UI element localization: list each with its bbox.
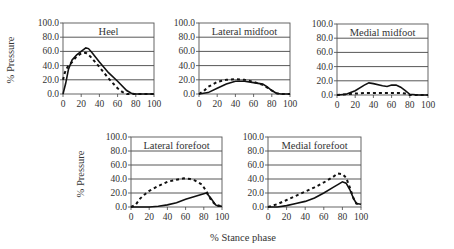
x-tick-label: 40 (95, 99, 105, 109)
y-tick-label: 80.0 (316, 33, 333, 43)
x-tick-label: 0 (335, 100, 340, 110)
lateral-forefoot-chart: 0.020.040.060.080.0100.0020406080100Late… (106, 132, 230, 222)
x-tick-label: 0 (61, 99, 66, 109)
series-solid (268, 182, 361, 207)
y-tick-label: 80.0 (110, 146, 127, 156)
x-tick-label: 20 (212, 99, 222, 109)
heel-chart: 0.020.040.060.080.0100.0020406080100Heel (38, 18, 162, 109)
y-tick-label: 0.0 (321, 90, 333, 100)
x-tick-label: 40 (231, 99, 241, 109)
series-dashed (268, 173, 361, 207)
y-tick-label: 40.0 (178, 61, 195, 71)
y-tick-label: 40.0 (110, 174, 127, 184)
y-tick-label: 60.0 (42, 46, 59, 56)
x-tick-label: 60 (249, 99, 259, 109)
x-tick-label: 100 (354, 212, 369, 222)
x-tick-label: 80 (338, 212, 348, 222)
y-tick-label: 100.0 (174, 18, 196, 28)
y-tick-label: 20.0 (247, 188, 264, 198)
y-tick-label: 0.0 (47, 89, 59, 99)
y-tick-label: 60.0 (247, 160, 264, 170)
medial-forefoot-chart: 0.020.040.060.080.0100.0020406080100Medi… (243, 132, 369, 222)
x-axis-label: % Stance phase (210, 232, 276, 243)
chart-title: Heel (99, 26, 119, 37)
x-tick-label: 80 (405, 100, 415, 110)
y-tick-label: 80.0 (178, 32, 195, 42)
chart-title: Lateral midfoot (212, 26, 278, 37)
x-tick-label: 40 (369, 100, 379, 110)
x-tick-label: 0 (129, 212, 134, 222)
y-tick-label: 0.0 (183, 89, 195, 99)
x-tick-label: 20 (144, 212, 154, 222)
x-tick-label: 60 (319, 212, 329, 222)
x-tick-label: 60 (387, 100, 397, 110)
y-tick-label: 20.0 (178, 75, 195, 85)
x-tick-label: 20 (282, 212, 292, 222)
y-tick-label: 20.0 (42, 75, 59, 85)
figure-canvas: 0.020.040.060.080.0100.0020406080100Heel… (0, 0, 454, 249)
x-tick-label: 80 (199, 212, 209, 222)
y-tick-label: 40.0 (316, 62, 333, 72)
y-tick-label: 20.0 (110, 188, 127, 198)
x-tick-label: 100 (147, 99, 162, 109)
x-tick-label: 80 (267, 99, 277, 109)
y-tick-label: 80.0 (247, 146, 264, 156)
x-tick-label: 40 (163, 212, 173, 222)
y-tick-label: 40.0 (42, 61, 59, 71)
series-solid (199, 81, 290, 94)
x-tick-label: 80 (131, 99, 141, 109)
y-tick-label: 60.0 (316, 47, 333, 57)
lateral-midfoot-chart: 0.020.040.060.080.0100.0020406080100Late… (174, 18, 298, 109)
y-axis-label-top: % Pressure (5, 36, 16, 83)
x-tick-label: 40 (300, 212, 310, 222)
x-tick-label: 0 (197, 99, 202, 109)
chart-title: Medial forefoot (281, 140, 347, 151)
x-tick-label: 20 (350, 100, 360, 110)
y-tick-label: 100.0 (38, 18, 60, 28)
y-tick-label: 60.0 (110, 160, 127, 170)
y-tick-label: 0.0 (252, 202, 264, 212)
series-solid (63, 48, 154, 94)
y-tick-label: 100.0 (312, 19, 334, 29)
medial-midfoot-chart: 0.020.040.060.080.0100.0020406080100Medi… (312, 19, 436, 110)
x-tick-label: 100 (215, 212, 230, 222)
y-tick-label: 20.0 (316, 76, 333, 86)
y-axis-label-bottom: % Pressure (75, 150, 86, 197)
y-tick-label: 80.0 (42, 32, 59, 42)
chart-title: Lateral forefoot (143, 140, 209, 151)
x-tick-label: 20 (76, 99, 86, 109)
chart-title: Medial midfoot (350, 27, 416, 38)
y-tick-label: 40.0 (247, 174, 264, 184)
x-tick-label: 0 (266, 212, 271, 222)
y-tick-label: 100.0 (243, 132, 265, 142)
x-tick-label: 100 (421, 100, 436, 110)
y-tick-label: 60.0 (178, 46, 195, 56)
y-tick-label: 100.0 (106, 132, 128, 142)
x-tick-label: 100 (283, 99, 298, 109)
y-tick-label: 0.0 (115, 202, 127, 212)
x-tick-label: 60 (113, 99, 123, 109)
x-tick-label: 60 (181, 212, 191, 222)
